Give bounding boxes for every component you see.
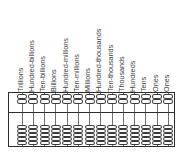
upper-bead[interactable] (152, 99, 162, 103)
upper-bead[interactable] (17, 99, 27, 103)
lower-bead[interactable] (96, 141, 106, 145)
lower-rod-thousands[interactable] (118, 113, 129, 146)
lower-rod-billions[interactable] (50, 113, 61, 146)
lower-deck (9, 113, 174, 146)
lower-rod-hundred-thousands[interactable] (95, 113, 106, 146)
upper-bead[interactable] (163, 94, 173, 98)
upper-bead[interactable] (96, 94, 106, 98)
upper-rod-trillions[interactable] (17, 93, 28, 112)
upper-bead[interactable] (141, 94, 151, 98)
upper-deck (9, 93, 174, 112)
upper-bead[interactable] (51, 94, 61, 98)
upper-bead[interactable] (96, 99, 106, 103)
place-value-label-hundred-millions: Hundred-millions (61, 38, 70, 92)
upper-bead[interactable] (40, 94, 50, 98)
upper-rod-thousands[interactable] (118, 93, 129, 112)
upper-bead[interactable] (107, 99, 117, 103)
upper-rod-ten-thousands[interactable] (107, 93, 118, 112)
soroban-place-value-diagram: TrillionsHundred-billionsTen-billionsBil… (0, 0, 191, 159)
place-value-label-band: TrillionsHundred-billionsTen-billionsBil… (0, 0, 191, 92)
lower-rod-ten-billions[interactable] (39, 113, 50, 146)
lower-rod-ones[interactable] (163, 113, 174, 146)
upper-bead[interactable] (130, 99, 140, 103)
upper-rod-ones[interactable] (163, 93, 174, 112)
place-value-label-billions: Billions (49, 69, 58, 92)
lower-bead[interactable] (51, 141, 61, 145)
place-value-label-thousands: Thousands (117, 56, 126, 92)
lower-bead[interactable] (40, 141, 50, 145)
lower-rod-ten-millions[interactable] (73, 113, 84, 146)
lower-rod-ten-thousands[interactable] (107, 113, 118, 146)
place-value-label-ones: Ones (162, 75, 171, 92)
lower-rod-hundred-billions[interactable] (28, 113, 39, 146)
upper-rod-hundreds[interactable] (129, 93, 140, 112)
upper-bead[interactable] (107, 94, 117, 98)
lower-bead[interactable] (17, 141, 27, 145)
upper-rod-billions[interactable] (50, 93, 61, 112)
upper-rod-ten-millions[interactable] (73, 93, 84, 112)
upper-bead[interactable] (85, 99, 95, 103)
upper-bead[interactable] (62, 99, 72, 103)
lower-bead[interactable] (73, 141, 83, 145)
lower-rod-ones[interactable] (152, 113, 163, 146)
upper-bead[interactable] (17, 94, 27, 98)
lower-bead[interactable] (28, 141, 38, 145)
lower-bead[interactable] (130, 141, 140, 145)
upper-rod-tens[interactable] (140, 93, 151, 112)
lower-bead[interactable] (107, 141, 117, 145)
upper-rod-hundred-billions[interactable] (28, 93, 39, 112)
upper-rod-ten-billions[interactable] (39, 93, 50, 112)
lower-rod-hundreds[interactable] (129, 113, 140, 146)
place-value-label-millions: Millions (83, 68, 92, 92)
upper-bead[interactable] (51, 99, 61, 103)
lower-bead[interactable] (118, 141, 128, 145)
place-value-label-hundred-thousands: Hundred-thousands (94, 29, 103, 92)
upper-rod-hundred-thousands[interactable] (95, 93, 106, 112)
upper-bead[interactable] (85, 94, 95, 98)
upper-rod-ones[interactable] (152, 93, 163, 112)
lower-rod-tens[interactable] (140, 113, 151, 146)
lower-bead[interactable] (163, 141, 173, 145)
upper-rod-millions[interactable] (84, 93, 95, 112)
lower-bead[interactable] (152, 141, 162, 145)
upper-bead[interactable] (152, 94, 162, 98)
lower-bead[interactable] (85, 141, 95, 145)
place-value-label-hundreds: Hundreds (128, 61, 137, 92)
place-value-label-trillions: Trillions (16, 68, 25, 92)
upper-rod-hundred-millions[interactable] (62, 93, 73, 112)
upper-bead[interactable] (130, 94, 140, 98)
upper-bead[interactable] (73, 99, 83, 103)
upper-bead[interactable] (141, 99, 151, 103)
upper-bead[interactable] (28, 94, 38, 98)
upper-bead[interactable] (118, 94, 128, 98)
abacus-frame (8, 92, 175, 147)
place-value-label-ten-millions: Ten-millions (72, 54, 81, 92)
lower-rod-millions[interactable] (84, 113, 95, 146)
upper-bead[interactable] (62, 94, 72, 98)
lower-rod-trillions[interactable] (17, 113, 28, 146)
lower-bead[interactable] (62, 141, 72, 145)
place-value-label-ones: Ones (151, 75, 160, 92)
upper-bead[interactable] (163, 99, 173, 103)
upper-bead[interactable] (28, 99, 38, 103)
place-value-label-hundred-billions: Hundred-billions (27, 40, 36, 92)
upper-bead[interactable] (118, 99, 128, 103)
lower-rod-hundred-millions[interactable] (62, 113, 73, 146)
upper-bead[interactable] (73, 94, 83, 98)
lower-bead[interactable] (141, 141, 151, 145)
upper-bead[interactable] (40, 99, 50, 103)
place-value-label-tens: Tens (139, 77, 148, 92)
place-value-label-ten-thousands: Ten-thousands (106, 45, 115, 92)
place-value-label-ten-billions: Ten-billions (38, 56, 47, 92)
